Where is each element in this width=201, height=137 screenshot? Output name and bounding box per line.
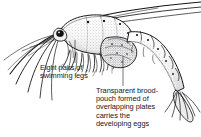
eye <box>56 30 63 36</box>
tail-fan <box>165 90 200 122</box>
annotation-swimming-legs: Eight pairs of swimming legs <box>40 64 88 80</box>
krill-anatomy-figure: Eight pairs of swimming legs Transparent… <box>0 0 201 137</box>
annotation-brood-pouch: Transparent brood- pouch formed of overl… <box>96 87 158 128</box>
abdomen-segments <box>127 31 184 92</box>
